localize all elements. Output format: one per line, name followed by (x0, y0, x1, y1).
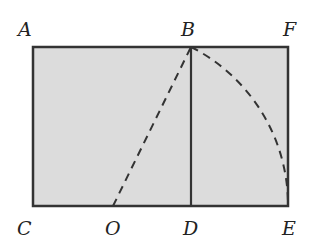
label-C: C (17, 217, 32, 239)
rectangle-ACEF (33, 47, 288, 206)
golden-rectangle-diagram: A B F C O D E (0, 0, 312, 244)
label-A: A (16, 18, 32, 40)
label-E: E (281, 217, 296, 239)
label-D: D (182, 217, 198, 239)
label-B: B (180, 18, 195, 40)
label-F: F (282, 18, 297, 40)
label-O: O (105, 217, 121, 239)
